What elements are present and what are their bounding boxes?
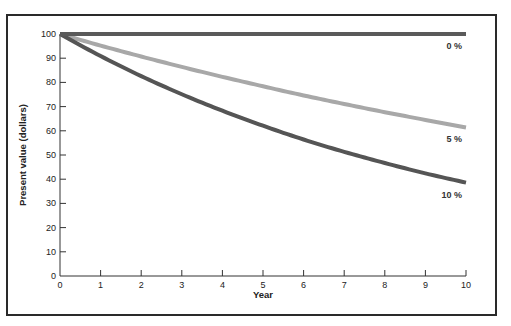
y-tick-label: 50 bbox=[46, 150, 56, 160]
x-tick-label: 2 bbox=[139, 280, 144, 290]
series-line-5pct bbox=[60, 34, 466, 127]
x-tick-label: 10 bbox=[461, 280, 471, 290]
x-tick-label: 6 bbox=[301, 280, 306, 290]
x-tick-label: 8 bbox=[382, 280, 387, 290]
x-tick-label: 9 bbox=[423, 280, 428, 290]
y-tick-label: 40 bbox=[46, 174, 56, 184]
y-tick-label: 100 bbox=[41, 29, 56, 39]
series-label: 10 % bbox=[441, 190, 462, 200]
x-tick-label: 7 bbox=[342, 280, 347, 290]
x-tick-label: 0 bbox=[57, 280, 62, 290]
axes: 0102030405060708090100012345678910 bbox=[41, 29, 471, 290]
y-tick-label: 60 bbox=[46, 126, 56, 136]
y-axis-title: Present value (dollars) bbox=[17, 104, 28, 206]
y-tick-label: 70 bbox=[46, 102, 56, 112]
y-tick-label: 80 bbox=[46, 77, 56, 87]
x-axis-title: Year bbox=[253, 289, 273, 300]
series-label: 0 % bbox=[446, 41, 462, 51]
present-value-chart: 0102030405060708090100012345678910 5 %10… bbox=[0, 0, 511, 326]
x-tick-label: 4 bbox=[220, 280, 225, 290]
x-tick-label: 1 bbox=[98, 280, 103, 290]
y-tick-label: 90 bbox=[46, 53, 56, 63]
series-lines bbox=[60, 34, 466, 183]
y-tick-label: 0 bbox=[51, 271, 56, 281]
series-label: 5 % bbox=[446, 134, 462, 144]
x-tick-label: 3 bbox=[179, 280, 184, 290]
series-line-10pct bbox=[60, 34, 466, 183]
y-tick-label: 30 bbox=[46, 198, 56, 208]
y-tick-label: 10 bbox=[46, 247, 56, 257]
y-tick-label: 20 bbox=[46, 223, 56, 233]
